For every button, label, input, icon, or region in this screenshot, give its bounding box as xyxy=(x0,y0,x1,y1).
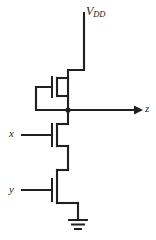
circuit-diagram-page: VDD z x y xyxy=(0,0,156,240)
input-label-y: y xyxy=(9,184,14,195)
input-label-x: x xyxy=(9,128,14,139)
supply-label-subscript: DD xyxy=(93,9,105,19)
vdd-supply-wire xyxy=(68,13,84,78)
output-node-junction-dot xyxy=(65,107,70,112)
supply-label-vdd: VDD xyxy=(86,5,105,18)
output-arrow-head-icon xyxy=(134,106,143,115)
output-label-z: z xyxy=(145,103,149,114)
circuit-schematic-svg xyxy=(0,0,156,240)
